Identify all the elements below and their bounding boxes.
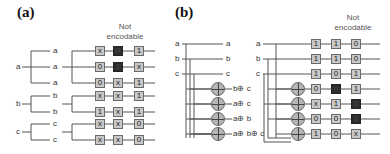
cell: x xyxy=(113,107,123,117)
xor-gate-icon xyxy=(211,97,225,111)
panel-b-output-label: a⊕ b⊕ c xyxy=(233,130,264,138)
cell: 1 xyxy=(311,54,321,64)
cell: 1 xyxy=(351,69,361,79)
xor-gate-icon xyxy=(211,82,225,96)
cell: 0 xyxy=(134,119,144,129)
panel-a-input-a: a xyxy=(16,63,20,71)
panel-a-fanout-label: c xyxy=(53,136,57,144)
cell: x xyxy=(134,62,144,72)
panel-a-input-c: c xyxy=(16,128,20,136)
cell: 0 xyxy=(351,39,361,49)
xor-gate-icon xyxy=(291,82,305,96)
panel-a-fanout-label: b xyxy=(53,108,57,116)
cell: x xyxy=(113,135,123,145)
cell-dark: 0 xyxy=(331,84,341,94)
cell: x xyxy=(113,91,123,101)
panel-b-output-label: a xyxy=(226,40,230,48)
cell-dark: 1 xyxy=(113,62,123,72)
cell: x xyxy=(311,99,321,109)
panel-a-fanout-label: a xyxy=(53,47,57,55)
panel-b-output-label: a⊕ b xyxy=(233,115,251,123)
cell-dark: 0 xyxy=(113,46,123,56)
cell: 0 xyxy=(351,54,361,64)
cell: 1 xyxy=(311,129,321,139)
xor-gate-icon xyxy=(291,97,305,111)
xor-gate-icon xyxy=(291,112,305,126)
cell: x xyxy=(95,119,105,129)
panel-b-output-label: c xyxy=(226,70,230,78)
cell: 1 xyxy=(311,39,321,49)
xor-gate-icon xyxy=(211,127,225,141)
panel-a-fanout-label: c xyxy=(53,120,57,128)
cell: 0 xyxy=(134,135,144,145)
cell: 1 xyxy=(134,78,144,88)
cell: x xyxy=(95,46,105,56)
cell: x xyxy=(113,78,123,88)
cell: 1 xyxy=(351,84,361,94)
cell: 0 xyxy=(331,114,341,124)
panel-b-second-input-b: b xyxy=(256,55,260,63)
cell: 1 xyxy=(331,54,341,64)
cell: x xyxy=(95,91,105,101)
cell: 0 xyxy=(311,84,321,94)
cell: 0 xyxy=(95,62,105,72)
cell-dark: 0 xyxy=(351,99,361,109)
xor-gate-icon xyxy=(291,127,305,141)
panel-b-output-label: b⊕ c xyxy=(233,85,251,93)
panel-a-fanout-label: a xyxy=(53,63,57,71)
panel-a-fanout-label: b xyxy=(53,92,57,100)
cell: 0 xyxy=(331,129,341,139)
cell: x xyxy=(113,119,123,129)
panel-a-input-b: b xyxy=(16,100,20,108)
panel-b-input-b: b xyxy=(175,55,179,63)
panel-b-input-a: a xyxy=(175,40,179,48)
panel-b-input-c: c xyxy=(175,70,179,78)
cell: 1 xyxy=(331,99,341,109)
cell: 1 xyxy=(331,39,341,49)
cell: 1 xyxy=(95,107,105,117)
panel-b-output-label: b xyxy=(226,55,230,63)
cell-dark: 1 xyxy=(351,114,361,124)
panel-b-output-label: a⊕ c xyxy=(233,100,251,108)
cell: x xyxy=(95,135,105,145)
panel-a-fanout-label: a xyxy=(53,79,57,87)
cell: x xyxy=(351,129,361,139)
cell: 0 xyxy=(311,114,321,124)
cell: 1 xyxy=(134,91,144,101)
cell: 1 xyxy=(311,69,321,79)
panel-b-second-input-c: c xyxy=(256,70,260,78)
cell: 0 xyxy=(331,69,341,79)
xor-gate-icon xyxy=(211,112,225,126)
cell: 1 xyxy=(134,46,144,56)
panel-b-second-input-a: a xyxy=(256,40,260,48)
cell: 0 xyxy=(95,78,105,88)
cell: 1 xyxy=(134,107,144,117)
